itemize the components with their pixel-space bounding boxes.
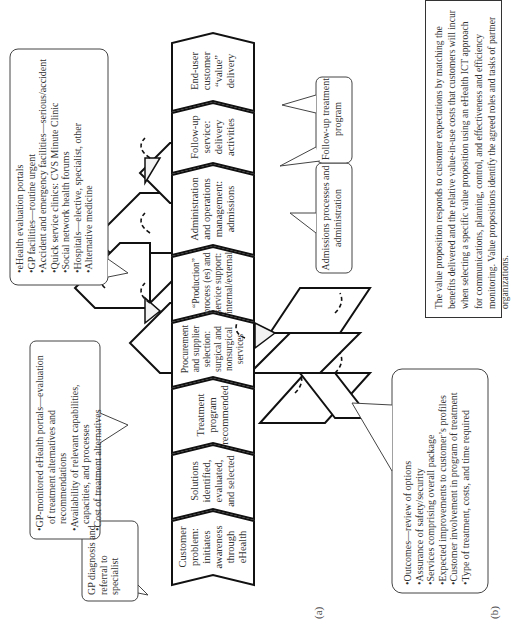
- callout-item: GP facilities—routine urgent: [26, 53, 38, 273]
- callout-item: Availability of relevant capabilities, c…: [69, 345, 92, 531]
- chevron-treatment-program: Treatment program recommended: [176, 387, 250, 443]
- value-proposition-box: The value proposition responds to custom…: [425, 0, 502, 318]
- chevron-customer-problem: Customer problem: initiates awareness th…: [176, 519, 250, 575]
- callout-admissions-text: Admissions processes and administration: [320, 166, 343, 271]
- figure-canvas: Customer problem: initiates awareness th…: [0, 0, 522, 633]
- callout-item: Services comprising overall package: [425, 371, 437, 585]
- reference-triangle: [255, 323, 275, 348]
- callout-item: eHealth evaluation portals: [14, 53, 26, 273]
- callout-gp-portals-tail: [100, 413, 128, 443]
- dashed-arrow: [141, 138, 150, 158]
- callout-item: Cost of treatment alternatives: [92, 345, 104, 531]
- chevron-end-user: End-user customer “value” delivery: [176, 41, 250, 101]
- callout-item: Alternative medicine: [83, 53, 95, 273]
- callout-admissions-tail: [290, 213, 316, 233]
- callout-followup-tail: [280, 95, 320, 166]
- value-proposition-text: The value proposition responds to custom…: [433, 10, 510, 309]
- callout-item: Assurance of safety/security: [414, 371, 426, 585]
- callout-item: Accident and emergency facilities—seriou…: [37, 53, 49, 273]
- callout-gp-portals: GP-monitored eHealth portals—evaluation …: [34, 345, 103, 531]
- chevron-procurement: Procurement and supplier selection: surg…: [176, 319, 250, 379]
- panel-b-label: (b): [488, 606, 500, 619]
- callout-item: Outcomes—review of options: [402, 371, 414, 585]
- chevron-follow-up-service: Follow-up service: delivery activities: [176, 111, 250, 163]
- callout-item: Customer involvement in program of treat…: [448, 371, 460, 585]
- callout-outcomes-tail: [352, 403, 392, 471]
- chevron-administration: Administration and operations management…: [176, 173, 250, 245]
- callout-gp-diagnosis-text: GP diagnosis and referral to specialist: [86, 525, 120, 595]
- callout-ehealth-portals: eHealth evaluation portals GP facilities…: [14, 53, 95, 273]
- chevron-solutions: Solutions identified, evaluated, and sel…: [176, 453, 250, 509]
- panel-a-label: (a): [312, 607, 324, 619]
- callout-outcomes: Outcomes—review of options Assurance of …: [402, 371, 471, 585]
- callout-followup-text: Follow-up treatment program: [320, 78, 343, 160]
- callout-item: Type of treatment, costs, and time requi…: [460, 371, 472, 585]
- callout-follow-up-program: Follow-up treatment program: [320, 77, 343, 161]
- callout-item: GP-monitored eHealth portals—evaluation …: [34, 345, 69, 531]
- lower-panel: [270, 288, 370, 333]
- callout-gp-diagnosis: GP diagnosis and referral to specialist: [86, 525, 121, 595]
- callout-item: Quick service clinics: CVS Minute Clinic: [49, 53, 61, 273]
- callout-admissions: Admissions processes and administration: [320, 165, 343, 271]
- callout-item: Social network health forums: [60, 53, 72, 273]
- callout-item: Expected improvements to customer’s prof…: [437, 371, 449, 585]
- chevron-production: “Production” process (es) and service su…: [176, 253, 250, 313]
- callout-item: Hospitals—elective, specialist, other: [72, 53, 84, 273]
